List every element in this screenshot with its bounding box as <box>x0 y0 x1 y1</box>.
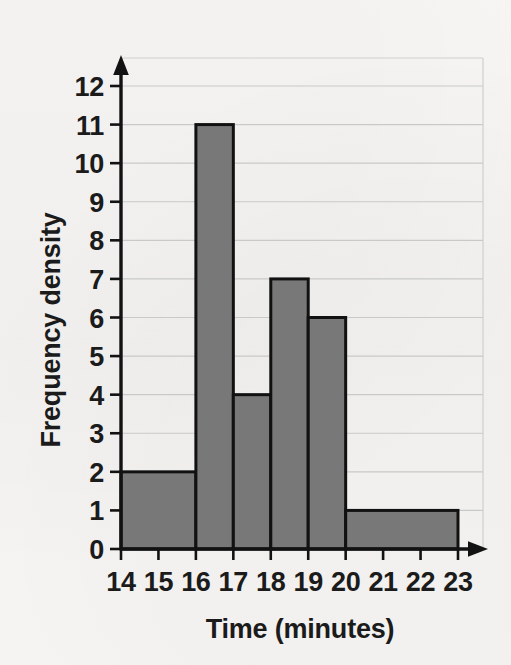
y-tick-label: 10 <box>75 149 104 179</box>
x-tick-label: 21 <box>368 567 398 597</box>
y-tick-label: 8 <box>89 226 104 256</box>
histogram-bar <box>121 472 196 549</box>
x-axis-tick-labels: 14151617181920212223 <box>106 567 473 597</box>
histogram-bar <box>271 279 308 549</box>
x-tick-label: 17 <box>219 567 248 597</box>
y-tick-label: 6 <box>89 304 104 334</box>
x-tick-label: 16 <box>181 567 211 597</box>
y-tick-label: 7 <box>89 265 104 295</box>
histogram-bar <box>196 125 233 549</box>
x-tick-label: 18 <box>256 567 286 597</box>
y-tick-label: 9 <box>89 188 104 218</box>
x-tick-label: 19 <box>294 567 324 597</box>
y-tick-label: 5 <box>89 342 104 372</box>
histogram-bar <box>308 318 345 550</box>
histogram-bars <box>121 125 458 549</box>
y-tick-label: 2 <box>89 458 104 488</box>
x-tick-label: 14 <box>106 567 136 597</box>
y-axis-title: Frequency density <box>36 212 66 447</box>
y-tick-label: 1 <box>89 496 104 526</box>
x-tick-label: 22 <box>406 567 435 597</box>
y-tick-label: 0 <box>89 535 104 565</box>
x-axis-title: Time (minutes) <box>206 614 395 644</box>
y-axis-tick-labels: 0123456789101112 <box>75 72 105 565</box>
histogram-bar <box>233 395 270 549</box>
chart-canvas: 0123456789101112 14151617181920212223 Fr… <box>0 0 511 665</box>
x-tick-label: 20 <box>331 567 360 597</box>
x-tick-label: 23 <box>443 567 473 597</box>
y-tick-label: 3 <box>89 419 104 449</box>
y-tick-label: 4 <box>89 381 104 411</box>
histogram-figure: 0123456789101112 14151617181920212223 Fr… <box>0 0 511 665</box>
y-tick-label: 11 <box>76 111 104 141</box>
x-tick-label: 15 <box>144 567 174 597</box>
histogram-bar <box>346 510 458 549</box>
y-tick-label: 12 <box>75 72 104 102</box>
x-axis-arrowhead <box>468 541 488 557</box>
